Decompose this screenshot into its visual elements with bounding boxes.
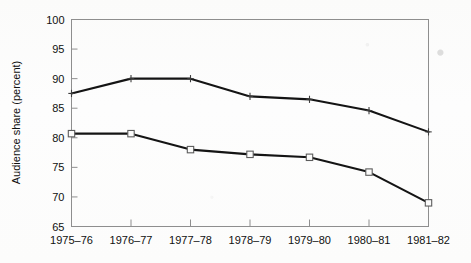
x-tick-label: 1978–79 <box>229 234 272 246</box>
data-point-marker <box>247 93 253 100</box>
data-point-marker <box>425 128 431 135</box>
x-tick-label: 1980–81 <box>348 234 391 246</box>
y-tick-label: 95 <box>52 43 64 55</box>
data-point-marker <box>187 146 193 152</box>
x-axis-tick-labels: 1975–761976–771977–781978–791979–801980–… <box>50 234 450 246</box>
y-tick-label: 70 <box>52 191 64 203</box>
data-point-marker <box>366 107 372 114</box>
data-point-marker <box>247 151 253 157</box>
data-point-marker <box>68 130 74 136</box>
data-point-marker <box>68 90 74 97</box>
data-point-marker <box>187 75 193 82</box>
x-tick-label: 1979–80 <box>288 234 331 246</box>
y-axis-tick-labels: 65707580859095100 <box>46 14 64 233</box>
y-tick-label: 80 <box>52 132 64 144</box>
y-axis-ticks <box>72 20 78 227</box>
x-axis-ticks <box>72 220 429 227</box>
data-point-marker <box>306 154 312 160</box>
data-point-marker <box>128 130 134 136</box>
y-axis-title: Audience share (percent) <box>10 61 22 185</box>
x-tick-label: 1981–82 <box>407 234 450 246</box>
x-tick-label: 1977–78 <box>169 234 212 246</box>
data-point-marker <box>366 169 372 175</box>
line-chart-plot: 65707580859095100 1975–761976–771977–781… <box>0 0 471 263</box>
x-tick-label: 1975–76 <box>50 234 93 246</box>
data-point-marker <box>128 75 134 82</box>
data-point-marker <box>425 200 431 206</box>
y-tick-label: 85 <box>52 102 64 114</box>
chart-figure: 65707580859095100 1975–761976–771977–781… <box>0 0 471 263</box>
plot-frame <box>72 20 429 227</box>
y-tick-label: 90 <box>52 73 64 85</box>
data-point-marker <box>306 96 312 103</box>
y-tick-label: 65 <box>52 221 64 233</box>
y-tick-label: 75 <box>52 161 64 173</box>
series-line-upper-series <box>72 79 429 132</box>
x-tick-label: 1976–77 <box>110 234 153 246</box>
series-line-lower-series <box>72 134 429 203</box>
y-tick-label: 100 <box>46 14 64 26</box>
series-markers-group <box>68 75 431 206</box>
